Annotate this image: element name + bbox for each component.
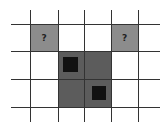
- grid-line-vertical: [84, 10, 85, 122]
- grid-line-vertical: [58, 10, 59, 122]
- grid-line-horizontal: [11, 24, 160, 25]
- grid-line-vertical: [138, 10, 139, 122]
- grid-line-horizontal: [11, 79, 160, 80]
- game-board: ? ?: [0, 0, 168, 126]
- grid-line-vertical: [30, 10, 31, 122]
- mine-square: [63, 57, 78, 72]
- mine-square: [92, 86, 106, 100]
- question-mark-icon: ?: [122, 33, 127, 43]
- grid-line-horizontal: [11, 51, 160, 52]
- unknown-cell[interactable]: ?: [111, 24, 138, 51]
- unknown-cell[interactable]: ?: [30, 24, 58, 51]
- question-mark-icon: ?: [41, 33, 46, 43]
- grid-line-horizontal: [11, 107, 160, 108]
- grid-line-vertical: [111, 10, 112, 122]
